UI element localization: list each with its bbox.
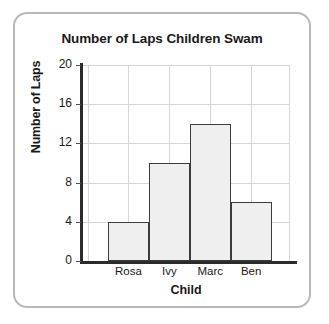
y-tick-mark	[76, 222, 81, 223]
x-axis-line	[80, 261, 297, 264]
y-tick-label-4: 4	[40, 214, 72, 228]
y-tick-label-0: 0	[40, 253, 72, 267]
y-tick-mark	[76, 104, 81, 105]
plot-area	[82, 65, 290, 261]
chart-title: Number of Laps Children Swam	[13, 31, 311, 47]
gridline-horizontal	[82, 143, 290, 144]
y-tick-mark	[76, 143, 81, 144]
bar-marc[interactable]	[190, 124, 231, 261]
y-tick-label-8: 8	[40, 175, 72, 189]
bar-ben[interactable]	[231, 202, 272, 261]
y-axis-line	[80, 63, 83, 263]
y-tick-label-20: 20	[40, 57, 72, 71]
x-tick-label-ben: Ben	[221, 265, 281, 277]
gridline-horizontal	[82, 65, 290, 66]
bar-ivy[interactable]	[149, 163, 190, 261]
bar-rosa[interactable]	[108, 222, 149, 261]
x-axis-title: Child	[82, 283, 290, 297]
y-tick-mark	[76, 65, 81, 66]
y-tick-mark	[76, 183, 81, 184]
gridline-vertical	[88, 65, 89, 261]
gridline-vertical	[289, 65, 290, 261]
y-tick-label-16: 16	[40, 96, 72, 110]
y-tick-label-12: 12	[40, 135, 72, 149]
chart-screenshot: Number of Laps Children Swam Number of L…	[0, 0, 329, 324]
gridline-horizontal	[82, 104, 290, 105]
y-tick-mark	[76, 261, 81, 262]
